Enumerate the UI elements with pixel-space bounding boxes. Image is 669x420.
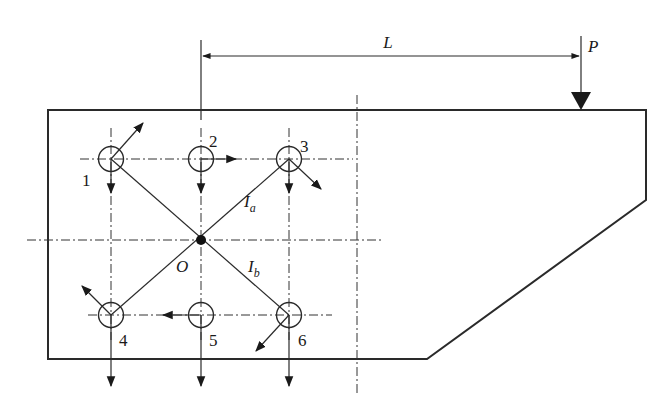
load-P: P	[571, 36, 598, 110]
torsion-arrow-3	[289, 159, 321, 189]
bolt-label: 5	[209, 331, 218, 350]
plate-outline	[48, 110, 646, 359]
centroid-label: O	[176, 257, 188, 276]
bolt-group-diagram: L P O Ia Ib 1 2 3 4 5 6	[0, 0, 669, 420]
radius-label-a: Ia	[243, 192, 256, 215]
bolt-label: 1	[82, 171, 91, 190]
load-arrow-icon	[571, 92, 591, 110]
dimension-L: L	[201, 33, 579, 120]
torsion-arrow-1	[111, 123, 143, 159]
torsion-arrow-4	[82, 286, 111, 315]
direct-shear-arrows	[111, 159, 289, 386]
bolt-2: 2	[189, 132, 218, 172]
bolt-label: 4	[119, 331, 128, 350]
bolt-label: 2	[209, 132, 218, 151]
bolt-label: 3	[300, 137, 309, 156]
bolt-label: 6	[298, 331, 307, 350]
bolt-5: 5	[189, 303, 218, 351]
radius-label-b: Ib	[247, 257, 260, 280]
center-lines	[27, 95, 384, 395]
dimension-label: L	[382, 33, 392, 52]
bolt-1: 1	[82, 147, 124, 191]
centroid-dot	[196, 235, 206, 245]
bolt-4: 4	[99, 303, 129, 351]
torsion-arrow-6	[256, 315, 289, 351]
bolt-6: 6	[277, 303, 307, 351]
load-label: P	[587, 37, 598, 56]
